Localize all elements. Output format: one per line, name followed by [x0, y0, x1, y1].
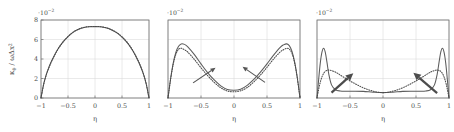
- gridlines-left: [41, 20, 149, 98]
- x-axis-title-left: η: [93, 115, 97, 123]
- exponent-label-right: ·10−2: [316, 8, 333, 16]
- x-tick-1-middle: 1: [298, 102, 302, 110]
- x-tick-0-right: 0: [381, 102, 385, 110]
- y-axis-title: κθ / ωΔx2: [8, 43, 17, 75]
- x-tick-neg05-left: −0.5: [60, 102, 76, 110]
- x-tick-0-left: 0: [93, 102, 97, 110]
- x-tick-neg1-middle: −1: [163, 102, 172, 110]
- x-tick-05-left: 0.5: [117, 102, 127, 110]
- x-tick-neg1-left: −1: [36, 102, 45, 110]
- x-tick-05-right: 0.5: [411, 102, 421, 110]
- x-tick-1-left: 1: [147, 102, 151, 110]
- exponent-label-left: ·10−2: [38, 8, 55, 16]
- arrow-left-shaft: [193, 71, 211, 83]
- y-tick-6: 6: [34, 36, 38, 44]
- svg-text:κθ / ωΔx2: κθ / ωΔx2: [8, 43, 17, 75]
- x-axis-title-middle: η: [232, 115, 236, 123]
- annotation-arrows-right: [332, 73, 438, 93]
- arrow-left-head: [210, 68, 215, 73]
- x-tick-neg1-right: −1: [312, 102, 321, 110]
- y-tick-4: 4: [34, 55, 38, 63]
- x-axis-title-right: η: [381, 115, 385, 123]
- exponent-label-middle: ·10−2: [167, 8, 184, 16]
- y-tick-8: 8: [34, 16, 38, 24]
- x-tick-05-middle: 0.5: [262, 102, 272, 110]
- panel-right: ·10−2 −1 −0.5: [305, 0, 454, 132]
- annotation-arrows-middle: [193, 67, 265, 83]
- panel-left: ·10−2: [0, 0, 156, 132]
- x-tick-neg05-right: −0.5: [342, 102, 358, 110]
- x-tick-1-right: 1: [447, 102, 451, 110]
- figure-container: ·10−2: [0, 0, 454, 132]
- arrow-right-head: [243, 67, 248, 72]
- x-tick-0-middle: 0: [232, 102, 236, 110]
- gridlines-middle: [168, 20, 300, 98]
- x-tick-neg05-middle: −0.5: [193, 102, 209, 110]
- panel-middle: ·10−2 −1 −0.5: [156, 0, 305, 132]
- y-tick-2: 2: [34, 75, 38, 83]
